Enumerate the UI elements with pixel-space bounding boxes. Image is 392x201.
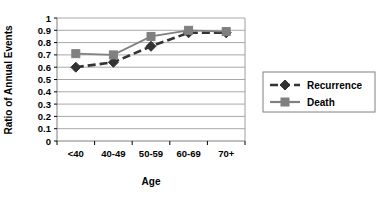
y-axis-tick-labels: 00.10.20.30.40.50.60.70.80.91 bbox=[38, 13, 52, 147]
x-tick-label: <40 bbox=[68, 148, 84, 159]
x-axis-title: Age bbox=[142, 176, 161, 187]
y-tick-label: 0.7 bbox=[38, 49, 51, 60]
x-axis-tick-labels: <4040-4950-5960-6970+ bbox=[68, 148, 235, 159]
y-tick-label: 0.8 bbox=[38, 37, 51, 48]
x-tick-label: 60-69 bbox=[176, 148, 200, 159]
marker-square-death bbox=[109, 51, 117, 59]
chart-container: 00.10.20.30.40.50.60.70.80.91 <4040-4950… bbox=[0, 0, 392, 201]
legend: RecurrenceDeath bbox=[263, 72, 375, 112]
y-tick-label: 0 bbox=[46, 136, 51, 147]
legend-label-death: Death bbox=[307, 97, 335, 108]
line-chart: 00.10.20.30.40.50.60.70.80.91 <4040-4950… bbox=[0, 0, 392, 201]
y-axis-title: Ratio of Annual Events bbox=[3, 25, 14, 135]
y-tick-label: 0.5 bbox=[38, 74, 52, 85]
y-tick-label: 0.2 bbox=[38, 111, 51, 122]
x-tick-label: 40-49 bbox=[101, 148, 125, 159]
marker-square-death bbox=[222, 28, 230, 36]
marker-square-legend-death bbox=[281, 98, 289, 106]
x-tick-label: 70+ bbox=[218, 148, 235, 159]
y-tick-label: 0.6 bbox=[38, 62, 51, 73]
marker-square-death bbox=[147, 32, 155, 40]
y-tick-label: 0.3 bbox=[38, 99, 51, 110]
legend-label-recurrence: Recurrence bbox=[307, 80, 362, 91]
y-tick-label: 0.9 bbox=[38, 25, 51, 36]
x-tick-label: 50-59 bbox=[139, 148, 163, 159]
y-tick-label: 1 bbox=[46, 13, 52, 24]
y-tick-label: 0.1 bbox=[38, 123, 52, 134]
x-axis-tick-marks bbox=[57, 141, 245, 145]
marker-square-death bbox=[72, 50, 80, 58]
marker-square-death bbox=[185, 26, 193, 34]
y-tick-label: 0.4 bbox=[38, 86, 52, 97]
